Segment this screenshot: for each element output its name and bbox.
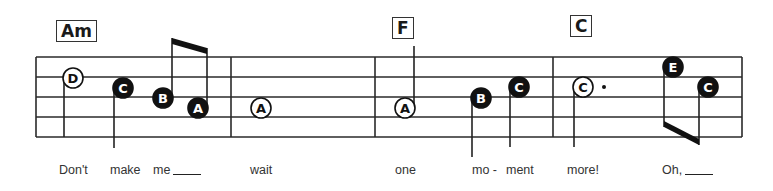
lyric-syllable: make xyxy=(110,163,141,177)
svg-text:C: C xyxy=(514,80,524,95)
svg-text:C: C xyxy=(578,80,588,95)
chord-symbol: F xyxy=(392,17,414,39)
svg-text:C: C xyxy=(118,81,128,96)
note-b: B xyxy=(153,88,173,108)
svg-text:A: A xyxy=(400,101,410,116)
lyric-extender-line xyxy=(173,174,201,175)
note-c: C xyxy=(113,78,133,98)
svg-text:A: A xyxy=(256,101,266,116)
beam xyxy=(664,121,699,145)
svg-text:C: C xyxy=(703,80,713,95)
svg-text:D: D xyxy=(68,71,79,86)
lyric-syllable: wait xyxy=(250,163,272,177)
note-b: B xyxy=(471,88,491,108)
note-c: C xyxy=(573,77,593,97)
lyric-syllable: me xyxy=(153,163,201,177)
note-c: C xyxy=(698,77,718,97)
lyric-syllable: Don't xyxy=(59,163,88,177)
lyric-syllable: one xyxy=(395,163,416,177)
note-a: A xyxy=(251,98,271,118)
svg-text:B: B xyxy=(476,91,486,106)
note-c: C xyxy=(509,77,529,97)
note-d: D xyxy=(63,68,83,88)
note-e: E xyxy=(663,57,683,77)
lyric-syllable: ment xyxy=(506,163,534,177)
note-a: A xyxy=(188,98,208,118)
chord-symbol: C xyxy=(570,15,592,37)
lyric-extender-line xyxy=(685,174,713,175)
svg-text:A: A xyxy=(193,101,203,116)
chord-symbol: Am xyxy=(56,20,97,42)
beam xyxy=(172,38,207,54)
lyric-syllable: more! xyxy=(567,163,599,177)
note-a: A xyxy=(395,98,415,118)
lyric-syllable: mo - xyxy=(472,163,497,177)
svg-text:B: B xyxy=(158,91,168,106)
dot-icon xyxy=(602,85,606,89)
svg-text:E: E xyxy=(669,60,678,75)
lyric-syllable: Oh, xyxy=(662,163,713,177)
